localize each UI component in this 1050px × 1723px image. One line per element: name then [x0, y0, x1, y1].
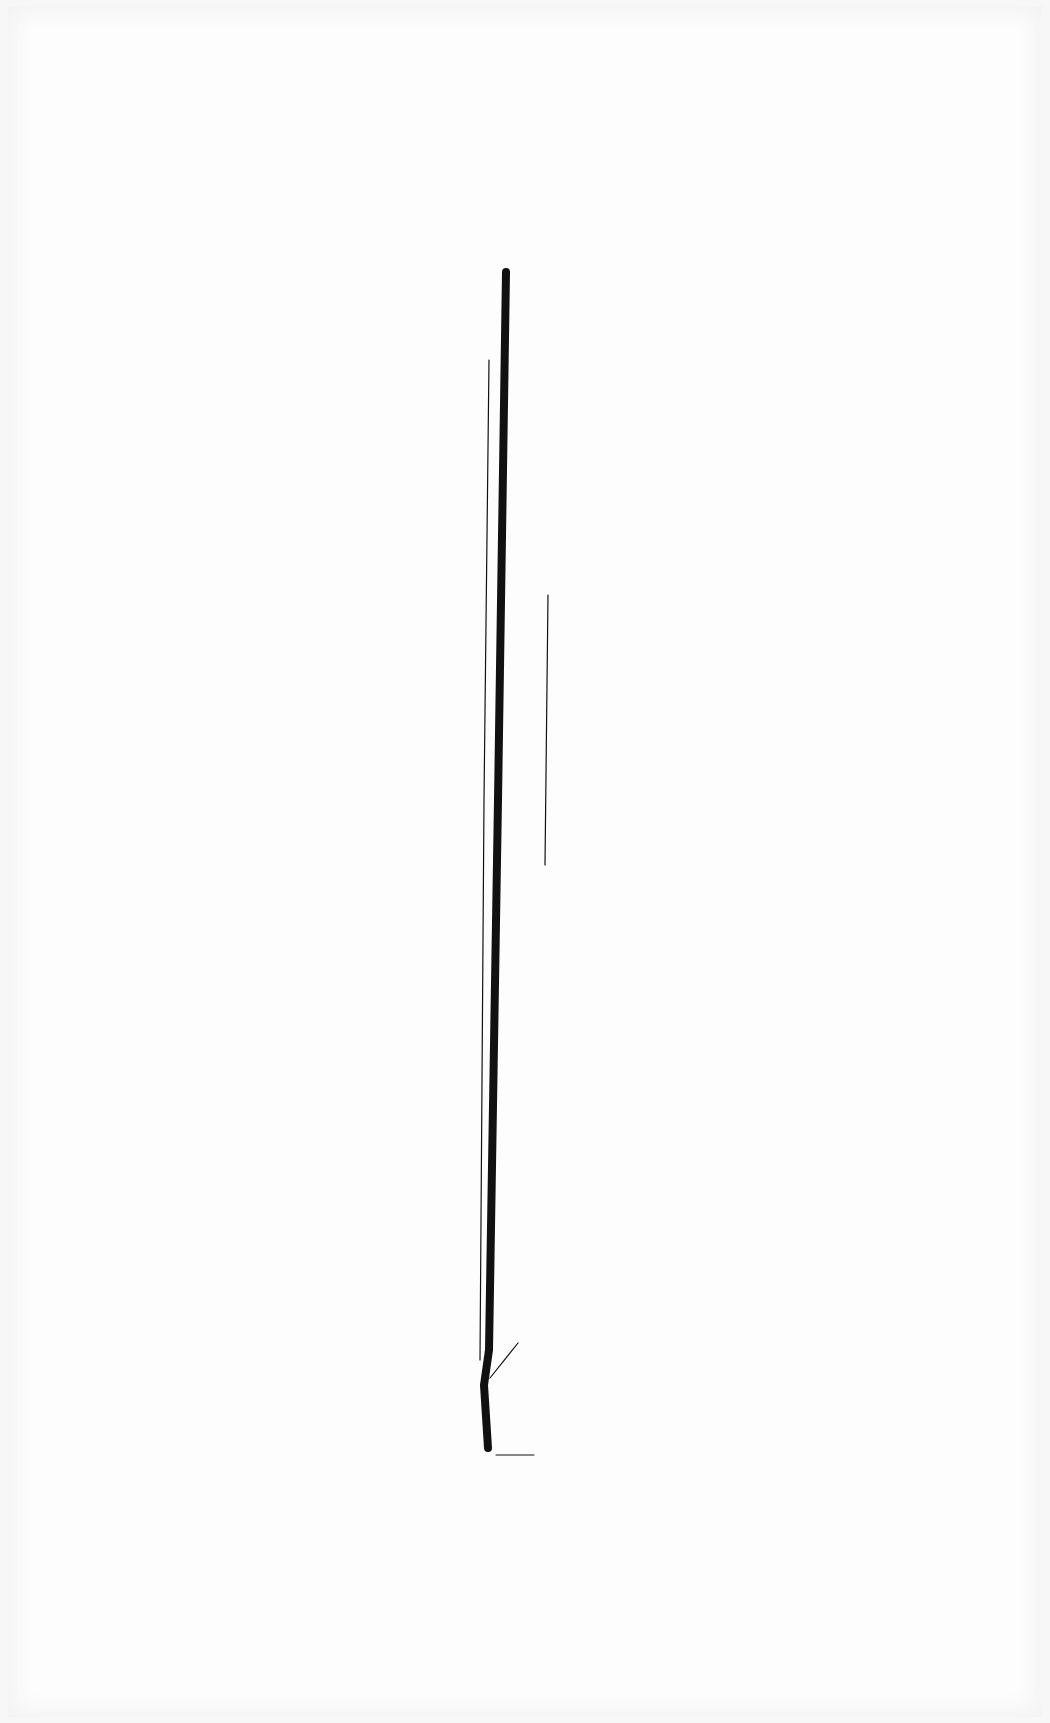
- ink-drawing: [0, 0, 1050, 1723]
- main-stroke: [484, 272, 506, 1448]
- diagonal-hairline: [490, 1343, 518, 1378]
- right-hairline: [545, 595, 548, 865]
